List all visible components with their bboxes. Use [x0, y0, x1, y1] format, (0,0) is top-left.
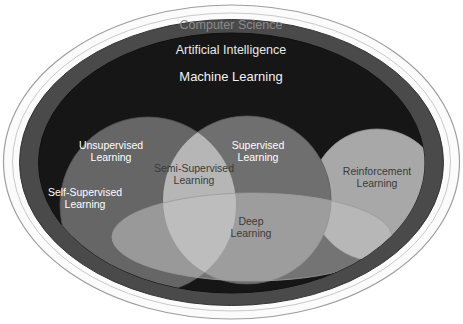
venn-diagram-canvas — [0, 0, 463, 324]
venn-diagram: Computer Science Artificial Intelligence… — [0, 0, 463, 324]
